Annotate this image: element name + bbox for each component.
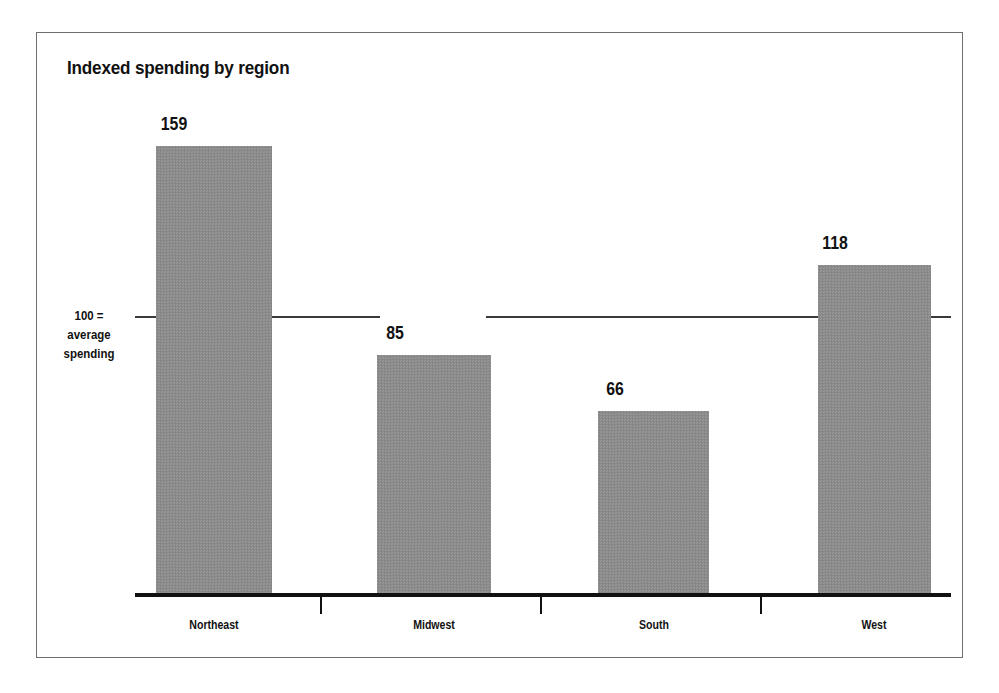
- category-label-west: West: [821, 618, 927, 632]
- axis-tick-2: [540, 596, 542, 614]
- plot-area: Indexed spending by region 159 85 66 118…: [37, 33, 962, 657]
- reference-line-annotation-line3: spending: [50, 345, 127, 364]
- x-axis-line: [135, 593, 951, 597]
- bar-value-label-northeast: 159: [123, 114, 225, 135]
- bar-value-label-south: 66: [564, 379, 666, 400]
- bar-south: [598, 411, 709, 595]
- reference-line-annotation: 100 = average spending: [50, 307, 127, 364]
- axis-tick-3: [760, 596, 762, 614]
- bar-midwest: [377, 355, 491, 595]
- bar-west: [818, 265, 931, 595]
- reference-line-segment-left: [135, 316, 158, 318]
- bar-value-label-midwest: 85: [344, 323, 446, 344]
- reference-line-segment-1: [272, 316, 380, 318]
- category-label-south: South: [601, 618, 707, 632]
- bar-northeast: [156, 146, 272, 595]
- reference-line-annotation-line1: 100 =: [50, 307, 127, 326]
- bar-value-label-west: 118: [784, 233, 886, 254]
- axis-tick-1: [320, 596, 322, 614]
- chart-frame: Indexed spending by region 159 85 66 118…: [36, 32, 963, 658]
- reference-line-segment-2: [486, 316, 818, 318]
- chart-title: Indexed spending by region: [67, 57, 289, 79]
- category-label-northeast: Northeast: [161, 618, 267, 632]
- reference-line-segment-right: [931, 316, 951, 318]
- reference-line-annotation-line2: average: [50, 326, 127, 345]
- category-label-midwest: Midwest: [381, 618, 487, 632]
